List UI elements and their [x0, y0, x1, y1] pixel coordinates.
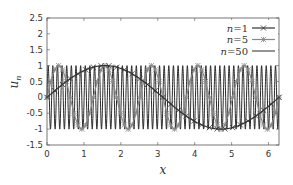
svg-text:n=5: n=5: [227, 34, 248, 45]
y-tick-label: 1.5: [29, 45, 43, 55]
x-tick-label: 4: [192, 149, 197, 159]
y-tick-label: 2: [38, 29, 43, 39]
y-tick-label: -1: [35, 124, 43, 134]
line-chart: 0123456 2.521.510.50-0.5-1-1.5 x un n=1n…: [0, 0, 293, 185]
x-tick-label: 3: [155, 149, 160, 159]
svg-text:n=1: n=1: [227, 23, 248, 34]
svg-text:un: un: [7, 76, 23, 89]
legend: n=1n=5n=50: [196, 20, 278, 58]
x-tick-label: 0: [44, 149, 49, 159]
y-tick-label: 0: [38, 92, 43, 102]
x-tick-label: 6: [266, 149, 271, 159]
y-tick-label: -1.5: [26, 140, 43, 150]
svg-text:n=50: n=50: [220, 46, 248, 57]
y-tick-label: 0.5: [29, 77, 43, 87]
y-axis-title: un: [7, 76, 23, 89]
y-tick-label: 1: [38, 61, 43, 71]
x-tick-label: 1: [81, 149, 86, 159]
x-axis-title: x: [160, 163, 167, 177]
y-tick-label: -0.5: [26, 108, 43, 118]
plot-series: [44, 63, 281, 132]
x-tick-label: 2: [118, 149, 123, 159]
x-tick-label: 5: [229, 149, 234, 159]
y-tick-label: 2.5: [29, 13, 43, 23]
